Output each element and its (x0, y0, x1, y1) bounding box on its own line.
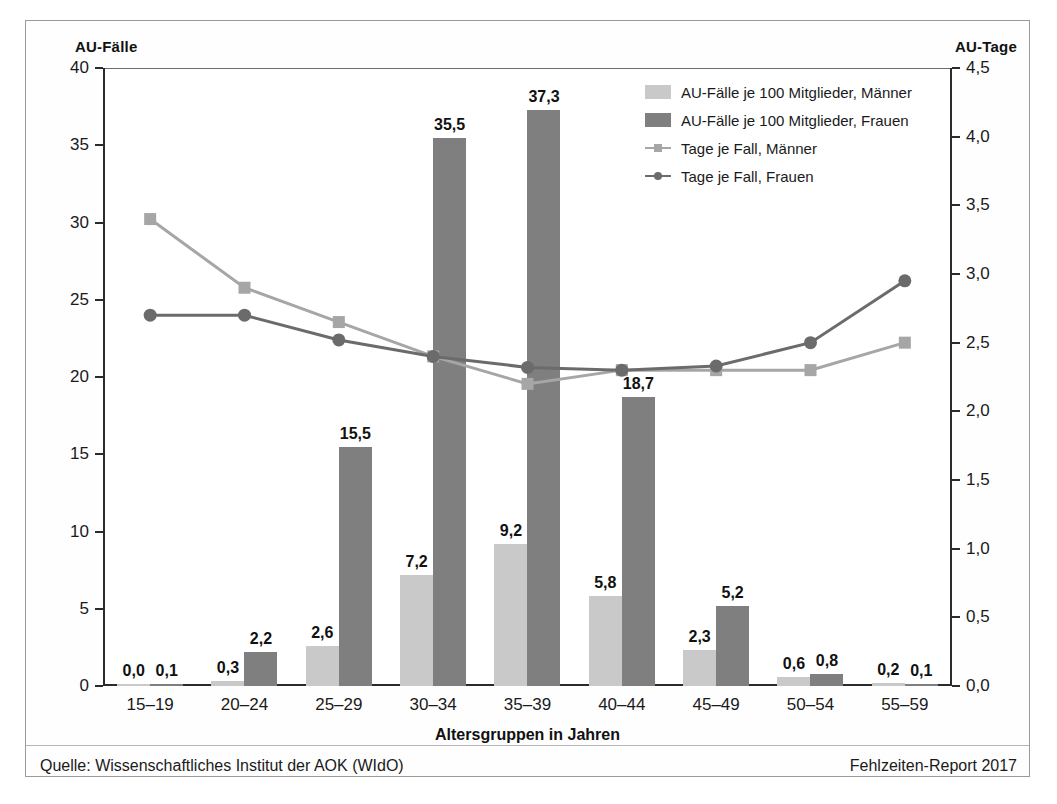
line-marker-circle (615, 364, 628, 377)
left-axis-tick (95, 453, 103, 455)
line-marker-square (144, 213, 156, 225)
left-axis-tick-label: 30 (70, 213, 89, 233)
right-axis-tick-label: 3,0 (966, 264, 990, 284)
right-axis-tick (952, 479, 960, 481)
left-axis-tick-label: 35 (70, 135, 89, 155)
x-axis-caption: Altersgruppen in Jahren (103, 726, 952, 744)
right-axis-tick (952, 616, 960, 618)
left-axis-tick-label: 10 (70, 522, 89, 542)
left-axis-tick-label: 15 (70, 444, 89, 464)
line-marker-circle (332, 333, 345, 346)
legend-label: Tage je Fall, Frauen (681, 168, 814, 185)
right-axis-tick (952, 685, 960, 687)
right-axis-tick-label: 0,5 (966, 607, 990, 627)
right-axis-tick (952, 410, 960, 412)
legend-label: AU-Fälle je 100 Mitglieder, Frauen (681, 112, 909, 129)
left-axis-tick-label: 5 (80, 599, 89, 619)
legend-label: Tage je Fall, Männer (681, 140, 817, 157)
line-marker-circle (804, 336, 817, 349)
right-axis-tick (952, 67, 960, 69)
line-marker-circle (144, 309, 157, 322)
left-axis-title: AU-Fälle (75, 38, 137, 55)
left-axis-tick (95, 531, 103, 533)
right-axis-tick-label: 2,5 (966, 333, 990, 353)
legend-swatch-icon (645, 113, 671, 127)
right-axis-title: AU-Tage (955, 38, 1017, 55)
figure-page: AU-Fälle AU-Tage 0510152025303540 0,00,5… (0, 0, 1057, 804)
legend-circle-marker-icon (645, 169, 671, 183)
left-axis-tick (95, 299, 103, 301)
x-axis-tick-label: 25–29 (315, 695, 362, 715)
line-series (150, 219, 905, 384)
left-axis-tick (95, 608, 103, 610)
right-axis-tick-label: 3,5 (966, 195, 990, 215)
right-axis-tick-label: 0,0 (966, 676, 990, 696)
line-marker-square (899, 337, 911, 349)
x-axis-tick-label: 20–24 (221, 695, 268, 715)
x-axis-tick-label: 35–39 (504, 695, 551, 715)
left-axis-tick (95, 144, 103, 146)
right-axis-tick (952, 204, 960, 206)
legend-item: AU-Fälle je 100 Mitglieder, Frauen (645, 106, 912, 134)
left-axis-tick (95, 67, 103, 69)
left-axis-tick-label: 40 (70, 58, 89, 78)
line-marker-square (805, 364, 817, 376)
left-axis-tick (95, 685, 103, 687)
footer-divider (26, 745, 1029, 746)
chart-legend: AU-Fälle je 100 Mitglieder, MännerAU-Fäl… (645, 78, 912, 190)
right-axis-tick-label: 4,5 (966, 58, 990, 78)
legend-swatch-icon (645, 85, 671, 99)
left-axis-tick-label: 20 (70, 367, 89, 387)
line-marker-square (522, 378, 534, 390)
right-axis-tick-label: 1,5 (966, 470, 990, 490)
line-marker-square (333, 316, 345, 328)
x-axis-tick-label: 30–34 (410, 695, 457, 715)
line-marker-circle (238, 309, 251, 322)
legend-square-marker-icon (645, 141, 671, 155)
right-axis-tick (952, 273, 960, 275)
x-axis-tick-label: 55–59 (881, 695, 928, 715)
right-axis-tick (952, 342, 960, 344)
source-note: Quelle: Wissenschaftliches Institut der … (40, 757, 404, 775)
legend-item: AU-Fälle je 100 Mitglieder, Männer (645, 78, 912, 106)
line-marker-circle (521, 361, 534, 374)
legend-label: AU-Fälle je 100 Mitglieder, Männer (681, 84, 912, 101)
x-axis-tick-label: 40–44 (598, 695, 645, 715)
line-marker-circle (710, 360, 723, 373)
legend-item: Tage je Fall, Frauen (645, 162, 912, 190)
line-marker-square (239, 282, 251, 294)
x-axis-tick-label: 45–49 (692, 695, 739, 715)
line-marker-circle (427, 350, 440, 363)
left-axis-tick-label: 0 (80, 676, 89, 696)
report-note: Fehlzeiten-Report 2017 (850, 757, 1017, 775)
legend-item: Tage je Fall, Männer (645, 134, 912, 162)
right-axis-tick-label: 1,0 (966, 539, 990, 559)
left-axis-tick-label: 25 (70, 290, 89, 310)
x-axis-tick-label: 15–19 (127, 695, 174, 715)
x-axis-tick-label: 50–54 (787, 695, 834, 715)
line-marker-circle (898, 274, 911, 287)
right-axis-tick (952, 548, 960, 550)
right-axis-tick-label: 4,0 (966, 127, 990, 147)
left-axis-tick (95, 222, 103, 224)
right-axis-tick (952, 136, 960, 138)
left-axis-tick (95, 376, 103, 378)
right-axis-tick-label: 2,0 (966, 401, 990, 421)
